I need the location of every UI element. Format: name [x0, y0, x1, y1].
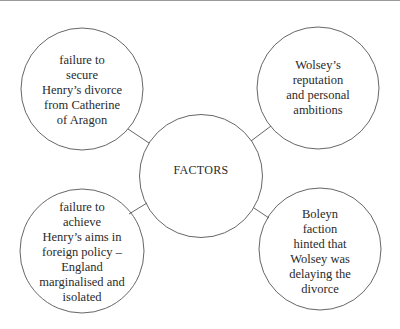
- node-line: Wolsey’s: [295, 58, 341, 73]
- connector-top-left: [128, 129, 149, 143]
- node-line: hinted that: [293, 237, 346, 252]
- node-line: ambitions: [293, 103, 342, 118]
- node-line: failure to: [59, 53, 104, 68]
- node-line: of Aragon: [57, 113, 107, 128]
- node-bottom-right: Boleyn faction hinted that Wolsey was de…: [270, 206, 370, 298]
- node-line: Wolsey was: [290, 252, 350, 267]
- center-label-text: FACTORS: [173, 163, 228, 178]
- node-line: secure: [66, 68, 98, 83]
- node-line: and personal: [286, 88, 350, 103]
- node-line: foreign policy –: [42, 245, 122, 260]
- node-line: isolated: [63, 290, 102, 305]
- node-line: Boleyn: [302, 207, 338, 222]
- node-line: achieve: [63, 215, 101, 230]
- node-line: reputation: [293, 73, 344, 88]
- node-top-right: Wolsey’s reputation and personal ambitio…: [268, 56, 368, 120]
- connector-bottom-right: [254, 208, 269, 218]
- node-line: divorce: [301, 282, 338, 297]
- node-line: failure to: [59, 200, 104, 215]
- center-label: FACTORS: [151, 160, 251, 180]
- node-bottom-left: failure to achieve Henry’s aims in forei…: [32, 199, 132, 305]
- node-line: Henry’s aims in: [42, 230, 121, 245]
- node-top-left: failure to secure Henry’s divorce from C…: [32, 50, 132, 130]
- node-line: from Catherine: [44, 98, 120, 113]
- node-line: faction: [303, 222, 338, 237]
- node-line: England: [61, 260, 103, 275]
- node-line: Henry’s divorce: [42, 83, 122, 98]
- node-line: delaying the: [289, 267, 350, 282]
- connector-top-right: [251, 126, 271, 141]
- node-line: marginalised and: [39, 275, 125, 290]
